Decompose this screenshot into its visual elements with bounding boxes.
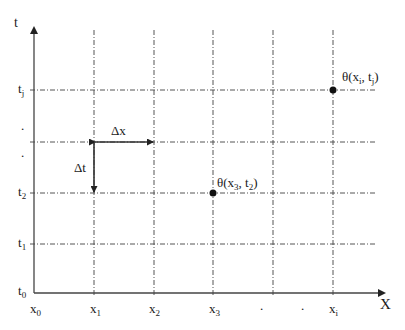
x-tick-xi: xi: [329, 302, 338, 318]
y-ellipsis-2: .: [21, 146, 24, 159]
vertical-grid-lines: [94, 30, 333, 297]
x-tick-x3: x3: [209, 302, 220, 318]
y-ellipsis-1: .: [21, 119, 24, 132]
x-tick-x0: x0: [30, 302, 41, 318]
x-ellipsis-1: .: [260, 299, 263, 312]
point-label-x3-t2: θ(x3, t2): [217, 176, 258, 192]
x-ellipsis-2: .: [301, 299, 304, 312]
x-tick-x1: x1: [90, 302, 101, 318]
y-axis-label: t: [14, 16, 18, 30]
point-x3-t2: [210, 190, 217, 197]
delta-t-label: Δt: [74, 161, 86, 174]
y-tick-t0: t0: [18, 284, 26, 300]
delta-x-label: Δx: [111, 124, 126, 137]
y-tick-tj: tj: [18, 82, 24, 98]
y-tick-t1: t1: [18, 236, 26, 252]
point-label-xi-tj: θ(xi, tj): [342, 70, 379, 86]
point-xi-tj: [330, 87, 337, 94]
y-tick-t2: t2: [18, 185, 26, 201]
x-axis-label: X: [380, 297, 391, 312]
grid-diagram: [0, 0, 405, 330]
x-tick-x2: x2: [149, 302, 160, 318]
